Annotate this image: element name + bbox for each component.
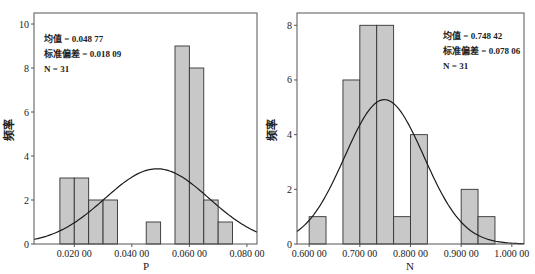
x-tick-label: 0.800 00 — [393, 248, 428, 259]
histogram-bar — [343, 80, 360, 244]
histogram-bar — [411, 135, 428, 244]
histogram-bar — [461, 189, 478, 244]
stat-mean: 均值 = 0.048 77 — [44, 33, 104, 44]
histogram-p: 0.020 000.040 000.060 000.080 00 0246810… — [2, 13, 264, 272]
histogram-bar — [218, 222, 232, 244]
x-tick-label: 0.600 00 — [292, 248, 327, 259]
x-axis-ticks: 0.020 000.040 000.060 000.080 00 — [57, 244, 265, 259]
stat-sd: 标准偏差 = 0.018 09 — [43, 48, 122, 59]
x-tick-label: 0.080 00 — [229, 248, 264, 259]
x-axis-label: N — [406, 260, 414, 272]
histogram-bar — [74, 178, 88, 244]
histogram-bar — [309, 217, 326, 244]
histogram-bar — [60, 178, 74, 244]
x-tick-label: 0.040 00 — [114, 248, 149, 259]
histogram-bar — [360, 25, 377, 244]
y-axis-ticks: 02468 — [287, 20, 297, 250]
x-tick-label: 0.020 00 — [57, 248, 92, 259]
x-tick-label: 1.000 00 — [494, 248, 529, 259]
y-tick-label: 8 — [24, 63, 29, 74]
histogram-bar — [204, 200, 218, 244]
histogram-bar — [146, 222, 160, 244]
histogram-bars — [309, 25, 495, 244]
histogram-n: 0.600 000.700 000.800 000.900 001.000 00… — [265, 13, 529, 272]
y-tick-label: 8 — [287, 20, 292, 31]
histogram-bar — [175, 46, 189, 244]
y-tick-label: 4 — [24, 151, 29, 162]
stat-n: N = 31 — [443, 61, 469, 71]
histogram-bar — [189, 68, 203, 244]
x-axis-ticks: 0.600 000.700 000.800 000.900 001.000 00 — [292, 244, 530, 259]
y-tick-label: 0 — [287, 239, 292, 250]
y-tick-label: 2 — [24, 195, 29, 206]
y-tick-label: 2 — [287, 184, 292, 195]
x-tick-label: 0.900 00 — [444, 248, 479, 259]
histogram-bar — [103, 200, 117, 244]
y-tick-label: 4 — [287, 129, 292, 140]
y-tick-label: 6 — [24, 107, 29, 118]
histogram-figure: 0.020 000.040 000.060 000.080 00 0246810… — [0, 0, 535, 274]
y-tick-label: 6 — [287, 74, 292, 85]
stat-n: N = 31 — [44, 64, 70, 74]
stat-mean: 均值 = 0.748 42 — [443, 30, 503, 41]
y-axis-label: 频率 — [2, 119, 15, 141]
x-tick-label: 0.700 00 — [342, 248, 377, 259]
histogram-bar — [377, 25, 394, 244]
y-tick-label: 10 — [19, 19, 29, 30]
y-axis-label: 频率 — [265, 119, 278, 141]
x-axis-label: P — [143, 260, 149, 272]
histogram-bar — [478, 217, 495, 244]
y-tick-label: 0 — [24, 239, 29, 250]
y-axis-ticks: 0246810 — [19, 19, 34, 250]
x-tick-label: 0.060 00 — [172, 248, 207, 259]
stat-sd: 标准偏差 = 0.078 06 — [442, 45, 521, 56]
histogram-bar — [394, 217, 411, 244]
